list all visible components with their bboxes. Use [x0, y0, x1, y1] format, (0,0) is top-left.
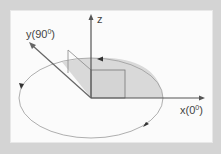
diagram-frame: z y(900) x(00) [0, 0, 221, 154]
z-axis-label: z [97, 14, 103, 25]
xz-rectangle [91, 70, 125, 98]
y-axis-label: y(900) [26, 28, 55, 40]
z-arrowhead-icon [89, 14, 94, 20]
axes-diagram [0, 0, 221, 154]
x-axis-label: x(00) [180, 104, 203, 116]
orbit-arrow-left-icon [19, 83, 24, 89]
x-arrowhead-icon [199, 96, 205, 101]
